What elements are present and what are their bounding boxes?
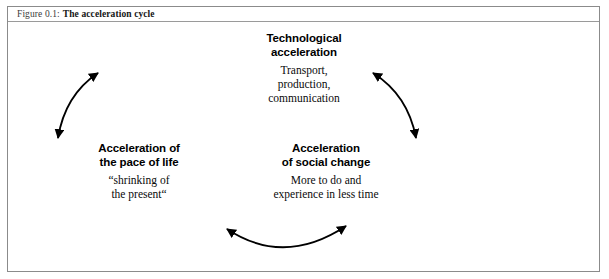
node-acceleration-pace-of-life-body: “shrinking of the present“ xyxy=(44,174,234,202)
node-acceleration-social-change-body: More to do and experience in less time xyxy=(223,174,429,202)
node-technological-acceleration-body: Transport, production, communication xyxy=(197,64,411,105)
node-acceleration-social-change: Acceleration of social change More to do… xyxy=(223,141,429,202)
figure-caption-label: Figure 0.1: xyxy=(17,9,60,19)
node-technological-acceleration: Technological acceleration Transport, pr… xyxy=(197,31,411,105)
node-acceleration-social-change-heading: Acceleration of social change xyxy=(223,141,429,169)
arrow-bottom xyxy=(227,226,346,247)
node-acceleration-pace-of-life: Acceleration of the pace of life “shrink… xyxy=(44,141,234,202)
figure-caption-title: The acceleration cycle xyxy=(63,9,155,19)
arrow-left xyxy=(58,73,98,138)
figure-caption: Figure 0.1: The acceleration cycle xyxy=(8,7,599,22)
acceleration-cycle-diagram: Technological acceleration Transport, pr… xyxy=(8,23,599,271)
figure-screenshot: Figure 0.1: The acceleration cycle Techn… xyxy=(0,0,609,279)
node-technological-acceleration-heading: Technological acceleration xyxy=(197,31,411,59)
node-acceleration-pace-of-life-heading: Acceleration of the pace of life xyxy=(44,141,234,169)
